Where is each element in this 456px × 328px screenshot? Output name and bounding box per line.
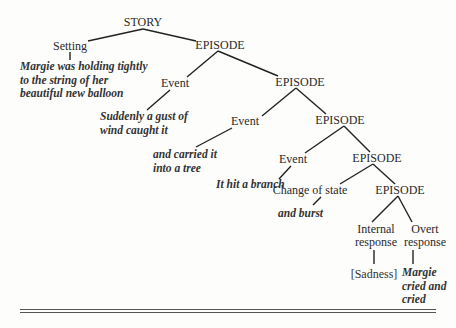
- node-event-1: Event: [161, 77, 189, 90]
- node-change-of-state: Change of state: [273, 184, 348, 197]
- node-line: response: [404, 236, 446, 249]
- leaf-line: Margie was holding tightly: [20, 60, 147, 74]
- leaf-line: into a tree: [153, 162, 217, 176]
- double-rule-bottom: [20, 312, 436, 313]
- double-rule-top: [20, 309, 436, 310]
- node-overt-response: Overt response: [404, 223, 446, 249]
- leaf-internal-response: [Sadness]: [351, 268, 398, 282]
- leaf-line: Suddenly a gust of: [100, 110, 188, 124]
- leaf-line: wind caught it: [100, 124, 188, 138]
- leaf-event-2: and carried it into a tree: [153, 148, 217, 175]
- leaf-line: to the string of her: [20, 74, 147, 88]
- leaf-line: cried and: [402, 280, 446, 294]
- node-internal-response: Internal response: [355, 223, 397, 249]
- node-story: STORY: [124, 16, 162, 29]
- leaf-setting: Margie was holding tightly to the string…: [20, 60, 147, 101]
- leaf-line: and carried it: [153, 148, 217, 162]
- node-event-3: Event: [279, 153, 307, 166]
- leaf-line: beautiful new balloon: [20, 87, 147, 101]
- leaf-event-1: Suddenly a gust of wind caught it: [100, 110, 188, 137]
- leaf-line: [Sadness]: [351, 268, 398, 282]
- node-episode-4: EPISODE: [352, 152, 401, 165]
- node-setting: Setting: [53, 40, 87, 53]
- leaf-line: cried: [402, 293, 446, 307]
- leaf-change-of-state: and burst: [278, 207, 323, 221]
- leaf-overt-response: Margie cried and cried: [402, 266, 446, 307]
- node-event-2: Event: [231, 115, 259, 128]
- node-line: response: [355, 236, 397, 249]
- node-episode-3: EPISODE: [315, 114, 364, 127]
- leaf-line: Margie: [402, 266, 446, 280]
- leaf-line: and burst: [278, 207, 323, 221]
- node-episode-1: EPISODE: [195, 39, 244, 52]
- node-episode-5: EPISODE: [375, 184, 424, 197]
- node-episode-2: EPISODE: [275, 76, 324, 89]
